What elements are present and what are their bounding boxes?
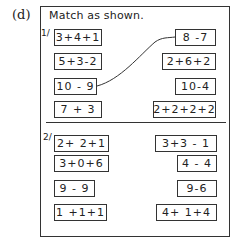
set-2-left-item-4: 1 +1+1 (54, 204, 107, 221)
set-2-right-item-1: 3+3 - 1 (155, 135, 217, 152)
set-2-right-item-2: 4 - 4 (177, 155, 217, 172)
set-2-left-item-3: 9 - 9 (54, 180, 95, 197)
set-2-right-item-3: 9-6 (177, 180, 217, 197)
set-2-left-item-2: 3+0+6 (54, 155, 109, 172)
set-2-right-item-4: 4+ 1+4 (156, 204, 217, 221)
set-2-number: 2/ (43, 132, 52, 142)
section-divider (46, 122, 226, 123)
set-2-left-item-1: 2+ 2+1 (54, 135, 109, 152)
